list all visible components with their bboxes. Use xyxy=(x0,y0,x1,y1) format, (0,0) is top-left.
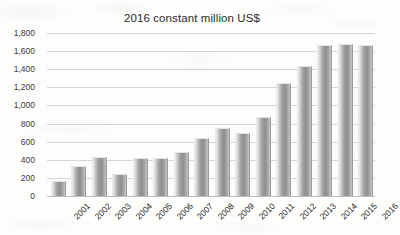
x-tick-label: 2006 xyxy=(174,201,194,221)
x-tick-label: 2010 xyxy=(256,201,276,221)
y-tick-label: 1,000 xyxy=(0,100,35,110)
bar xyxy=(256,117,271,196)
bar xyxy=(51,181,66,196)
bar xyxy=(358,45,373,196)
bar xyxy=(338,44,353,196)
x-tick-label: 2002 xyxy=(92,201,112,221)
bar xyxy=(174,152,189,196)
bar xyxy=(194,138,209,196)
x-tick-label: 2012 xyxy=(297,201,317,221)
x-tick-label: 2001 xyxy=(72,201,92,221)
axis-line-zero xyxy=(47,196,375,197)
bar xyxy=(133,158,148,196)
y-tick-label: 200 xyxy=(0,173,35,183)
y-tick-label: 1,800 xyxy=(0,28,35,38)
bar xyxy=(153,158,168,196)
plot-area: 02004006008001,0001,2001,4001,6001,800 xyxy=(47,33,375,196)
y-tick-label: 600 xyxy=(0,137,35,147)
y-tick-label: 1,600 xyxy=(0,46,35,56)
y-tick-label: 1,200 xyxy=(0,82,35,92)
chart-title: 2016 constant million US$ xyxy=(0,12,384,24)
bar xyxy=(92,157,107,196)
x-tick-label: 2005 xyxy=(154,201,174,221)
x-tick-label: 2009 xyxy=(236,201,256,221)
bar xyxy=(317,45,332,196)
x-tick-label: 2015 xyxy=(359,201,379,221)
bar xyxy=(276,83,291,196)
x-tick-label: 2004 xyxy=(133,201,153,221)
bar xyxy=(71,166,86,196)
x-tick-label: 2013 xyxy=(318,201,338,221)
y-tick-label: 0 xyxy=(0,191,35,201)
x-tick-label: 2008 xyxy=(215,201,235,221)
x-tick-label: 2011 xyxy=(277,201,297,221)
gridline xyxy=(47,33,375,34)
x-tick-label: 2003 xyxy=(113,201,133,221)
bar xyxy=(112,174,127,196)
bar xyxy=(297,66,312,196)
x-tick-label: 2014 xyxy=(338,201,358,221)
x-tick-label: 2007 xyxy=(195,201,215,221)
y-tick-label: 400 xyxy=(0,155,35,165)
x-tick-label: 2016 xyxy=(379,201,399,221)
bar xyxy=(235,133,250,196)
y-tick-label: 1,400 xyxy=(0,64,35,74)
bar xyxy=(215,128,230,196)
y-tick-label: 800 xyxy=(0,119,35,129)
